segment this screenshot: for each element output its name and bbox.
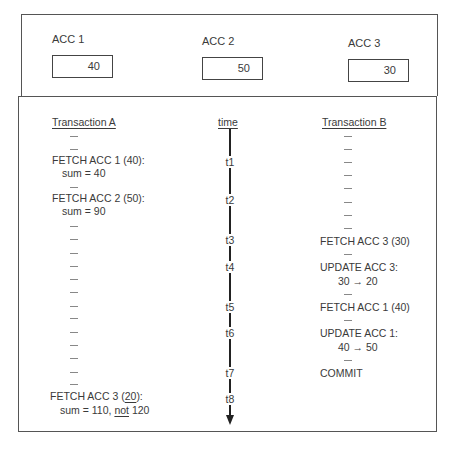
b-commit: COMMIT — [320, 367, 363, 379]
time-label-t7: t7 — [220, 367, 240, 379]
a-sum-3-not: not — [114, 404, 129, 416]
a-sum-3-suffix: 120 — [129, 404, 149, 416]
idle-dash — [70, 372, 78, 373]
a-fetch-acc2: FETCH ACC 2 (50): — [52, 192, 145, 204]
b-fetch-acc3: FETCH ACC 3 (30) — [320, 235, 410, 247]
idle-dash — [344, 175, 352, 176]
idle-dash — [70, 318, 78, 319]
a-sum-2: sum = 90 — [62, 205, 105, 217]
time-label-t5: t5 — [220, 301, 240, 313]
idle-dash — [344, 228, 352, 229]
time-label-t4: t4 — [220, 261, 240, 273]
acc3-label: ACC 3 — [348, 37, 380, 49]
a-fetch-acc1: FETCH ACC 1 (40): — [52, 154, 145, 166]
idle-dash — [70, 149, 78, 150]
idle-dash — [344, 294, 352, 295]
acc1-label: ACC 1 — [52, 33, 84, 45]
acc2-label: ACC 2 — [202, 35, 234, 47]
idle-dash — [344, 188, 352, 189]
b-update-acc3-change: 30 → 20 — [338, 275, 378, 287]
arrow-down-icon — [226, 415, 234, 425]
idle-dash — [70, 306, 78, 307]
b-update-acc3: UPDATE ACC 3: — [320, 261, 398, 273]
time-label-t3: t3 — [220, 234, 240, 246]
idle-dash — [344, 136, 352, 137]
idle-dash — [344, 162, 352, 163]
idle-dash — [70, 239, 78, 240]
idle-dash — [344, 202, 352, 203]
a-sum-3-prefix: sum = 110, — [60, 404, 114, 416]
idle-dash — [70, 332, 78, 333]
idle-dash — [70, 226, 78, 227]
b-fetch-acc1: FETCH ACC 1 (40) — [320, 301, 410, 313]
idle-dash — [344, 149, 352, 150]
acc2-value-box: 50 — [202, 57, 263, 80]
time-label-t2: t2 — [220, 194, 240, 206]
idle-dash — [70, 187, 78, 188]
time-label-t6: t6 — [220, 327, 240, 339]
idle-dash — [344, 254, 352, 255]
idle-dash — [70, 253, 78, 254]
a-sum-1: sum = 40 — [62, 167, 105, 179]
b-update-acc1: UPDATE ACC 1: — [320, 327, 398, 339]
idle-dash — [70, 279, 78, 280]
b-update-acc1-change: 40 → 50 — [338, 341, 378, 353]
acc3-value-box: 30 — [348, 59, 409, 82]
idle-dash — [344, 320, 352, 321]
a-fetch-acc3-suffix: ): — [136, 390, 142, 402]
idle-dash — [70, 358, 78, 359]
idle-dash — [70, 345, 78, 346]
a-fetch-acc3-prefix: FETCH ACC 3 ( — [50, 390, 125, 402]
a-sum-3: sum = 110, not 120 — [60, 404, 149, 416]
transaction-a-title: Transaction A — [52, 116, 116, 128]
idle-dash — [70, 292, 78, 293]
idle-dash — [344, 215, 352, 216]
time-label-t8: t8 — [220, 393, 240, 405]
a-fetch-acc3-value: 20 — [125, 390, 137, 402]
a-fetch-acc3: FETCH ACC 3 (20): — [50, 390, 143, 402]
idle-dash — [344, 360, 352, 361]
idle-dash — [70, 384, 78, 385]
idle-dash — [70, 266, 78, 267]
acc1-value-box: 40 — [52, 55, 113, 78]
time-axis-title: time — [218, 116, 238, 128]
idle-dash — [70, 136, 78, 137]
time-label-t1: t1 — [220, 156, 240, 168]
transaction-b-title: Transaction B — [322, 116, 386, 128]
